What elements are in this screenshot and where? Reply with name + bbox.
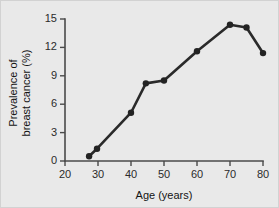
y-tick-label: 0: [51, 154, 57, 166]
x-axis-ticks: 20304050607080: [59, 161, 269, 180]
data-point-marker: [161, 77, 167, 83]
x-tick-label: 60: [191, 168, 203, 180]
x-tick-label: 50: [158, 168, 170, 180]
y-axis-title-line1: Prevalence of: [7, 58, 19, 126]
data-point-marker: [243, 24, 249, 30]
x-axis-title: Age (years): [136, 189, 193, 201]
data-point-marker: [260, 50, 266, 56]
y-tick-label: 3: [51, 126, 57, 138]
y-tick-label: 9: [51, 69, 57, 81]
x-tick-label: 80: [257, 168, 269, 180]
data-point-marker: [86, 153, 92, 159]
series-line-prevalence: [89, 25, 263, 157]
data-point-marker: [227, 21, 233, 27]
x-tick-label: 40: [125, 168, 137, 180]
x-tick-label: 30: [92, 168, 104, 180]
data-point-marker: [128, 110, 134, 116]
series-markers-prevalence: [86, 21, 266, 159]
prevalence-line-chart: 03691215 20304050607080 Age (years) Prev…: [1, 1, 279, 208]
data-point-marker: [194, 48, 200, 54]
data-point-marker: [143, 80, 149, 86]
data-point-marker: [94, 145, 100, 151]
y-tick-label: 15: [45, 12, 57, 24]
y-axis-ticks: 03691215: [45, 12, 65, 166]
chart-figure: 03691215 20304050607080 Age (years) Prev…: [0, 0, 279, 208]
y-axis-title-line2: breast cancer (%): [20, 50, 32, 137]
x-tick-label: 70: [224, 168, 236, 180]
y-tick-label: 12: [45, 40, 57, 52]
y-tick-label: 6: [51, 97, 57, 109]
x-tick-label: 20: [59, 168, 71, 180]
